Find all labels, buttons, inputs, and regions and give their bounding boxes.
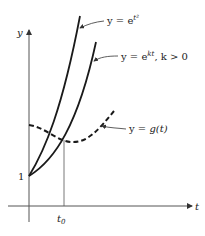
leader-arrow-g-of-t: [102, 126, 126, 129]
y-axis-label: y: [16, 27, 23, 38]
label-exp-t-squared: y = et²: [106, 14, 139, 26]
leader-arrow-exp-t-squared: [80, 21, 104, 28]
diagram: y t 1 t0 y = et² y = ekt, k > 0 y = g(t): [0, 0, 205, 236]
y-tick-one: 1: [18, 171, 24, 182]
label-exp-kt: y = ekt, k > 0: [120, 50, 188, 62]
t-axis-label: t: [195, 201, 200, 212]
t0-label: t0: [57, 213, 66, 226]
leader-arrow-exp-kt: [94, 56, 118, 61]
curve-g-of-t: [29, 111, 114, 142]
label-g-of-t: y = g(t): [128, 123, 168, 134]
